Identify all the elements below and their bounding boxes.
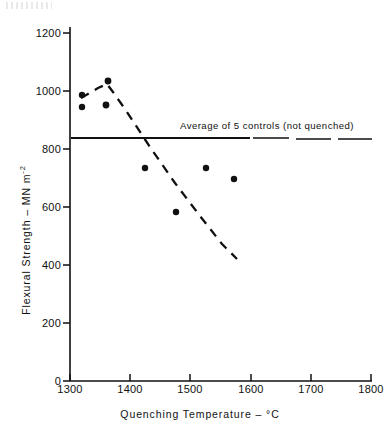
y-axis-title: Flexural Strength – MN m-2	[18, 165, 32, 315]
control-reference-line-group	[71, 138, 372, 139]
data-point	[103, 102, 110, 109]
data-point	[231, 176, 237, 182]
y-tick-label-200: 200	[42, 317, 61, 329]
y-axis-title-exponent: -2	[18, 165, 27, 173]
y-tick-label-600: 600	[42, 201, 61, 213]
x-tick-label-1800: 1800	[358, 383, 383, 395]
y-axis-title-base: Flexural Strength – MN m	[20, 174, 32, 315]
y-tick-label-800: 800	[42, 143, 61, 155]
trend-line-dashed	[81, 84, 237, 259]
data-point	[105, 78, 112, 85]
data-point	[79, 104, 85, 110]
data-points-group	[79, 78, 237, 216]
x-tick-label-1300: 1300	[57, 383, 82, 395]
data-point	[142, 165, 148, 171]
data-point	[79, 92, 85, 98]
y-tick-label-1200: 1200	[36, 27, 61, 39]
x-tick-label-1600: 1600	[238, 383, 263, 395]
flexural-strength-vs-quenching-temperature-chart: 0 200 400 600 800 1000 1200 1300 1400 15…	[0, 0, 386, 437]
scan-artifact	[6, 2, 52, 9]
data-point	[173, 209, 179, 215]
y-axis-tick-labels: 0 200 400 600 800 1000 1200	[36, 27, 61, 387]
x-axis-title: Quenching Temperature – °C	[120, 408, 279, 420]
y-axis-title-group: Flexural Strength – MN m-2	[18, 165, 32, 315]
x-axis-ticks	[70, 374, 371, 381]
x-tick-label-1700: 1700	[298, 383, 323, 395]
x-tick-label-1500: 1500	[177, 383, 202, 395]
figure-container: 0 200 400 600 800 1000 1200 1300 1400 15…	[0, 0, 386, 437]
x-tick-label-1400: 1400	[117, 383, 142, 395]
x-axis-tick-labels: 1300 1400 1500 1600 1700 1800	[57, 383, 383, 395]
control-line-annotation: Average of 5 controls (not quenched)	[180, 120, 354, 131]
data-point	[203, 165, 209, 171]
y-tick-label-1000: 1000	[36, 85, 61, 97]
y-axis-ticks	[63, 33, 70, 381]
axes	[70, 27, 372, 381]
y-tick-label-400: 400	[42, 259, 61, 271]
